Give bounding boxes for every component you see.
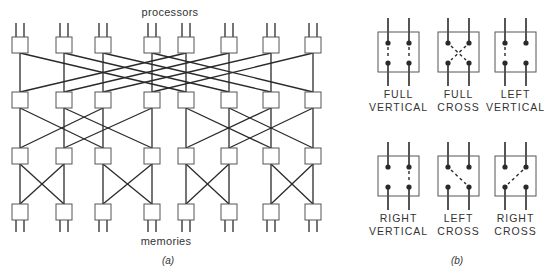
switch-box [144, 204, 160, 220]
switch-box [263, 37, 279, 53]
switch-label-line2: VERTICAL [369, 225, 428, 237]
switch-box [12, 148, 28, 164]
switch-box [378, 32, 419, 72]
switch-label-line1: RIGHT [380, 212, 418, 224]
switch-box [221, 92, 237, 108]
panel-b-switch-states: FULLVERTICALFULLCROSSLEFTVERTICALRIGHTVE… [369, 18, 545, 266]
terminal-dot [445, 60, 450, 65]
switch-box [144, 148, 160, 164]
terminal-dot [523, 164, 528, 169]
switch-box [263, 148, 279, 164]
switch-label-line1: RIGHT [497, 212, 535, 224]
switch-box [56, 92, 72, 108]
switch-box [178, 204, 194, 220]
switch-box [438, 156, 479, 196]
switch-box [56, 148, 72, 164]
switch-box [12, 37, 28, 53]
switch-box [12, 92, 28, 108]
terminal-dot [406, 184, 411, 189]
switch-box [144, 37, 160, 53]
terminal-dot [523, 60, 528, 65]
switch-label-line2: VERTICAL [486, 101, 545, 113]
switch-box [178, 148, 194, 164]
dashed-connection [451, 46, 466, 60]
switch-box [221, 148, 237, 164]
switch-box [221, 204, 237, 220]
terminal-dot [502, 40, 507, 45]
terminal-dot [466, 184, 471, 189]
switch-box [495, 32, 536, 72]
switch-box [56, 37, 72, 53]
terminal-dot [466, 60, 471, 65]
terminal-dot [406, 164, 411, 169]
switch-full-cross: FULLCROSS [437, 18, 479, 113]
terminal-dot [502, 60, 507, 65]
terminal-dot [406, 40, 411, 45]
terminal-dot [385, 60, 390, 65]
switch-box [221, 37, 237, 53]
switch-box [378, 156, 419, 196]
switch-label-line1: LEFT [444, 212, 474, 224]
switch-label-line1: LEFT [501, 88, 531, 100]
processors-label: processors [142, 6, 199, 18]
terminal-dot [445, 164, 450, 169]
caption-a: (a) [162, 255, 174, 266]
switch-box [56, 204, 72, 220]
switch-label-line2: CROSS [494, 225, 536, 237]
terminal-dot [502, 164, 507, 169]
switch-box [305, 148, 321, 164]
switch-full-vertical: FULLVERTICAL [369, 18, 428, 113]
switch-box [178, 37, 194, 53]
switch-box [305, 37, 321, 53]
network-links [16, 23, 317, 232]
switch-right-cross: RIGHTCROSS [494, 142, 536, 237]
caption-b: (b) [451, 255, 463, 266]
switch-label-line2: CROSS [437, 101, 479, 113]
terminal-dot [466, 40, 471, 45]
switch-box [438, 32, 479, 72]
diagram-svg: processors memories (a) FULLVERTICALFULL… [0, 0, 549, 277]
switch-box [95, 92, 111, 108]
switch-boxes [12, 37, 321, 220]
terminal-dot [385, 164, 390, 169]
switch-left-cross: LEFTCROSS [437, 142, 479, 237]
terminal-dot [406, 60, 411, 65]
dashed-connection [451, 46, 466, 60]
switch-label-line1: FULL [444, 88, 474, 100]
switch-label-line2: VERTICAL [369, 101, 428, 113]
switch-box [12, 204, 28, 220]
switch-label-line2: CROSS [437, 225, 479, 237]
switch-box [95, 204, 111, 220]
switch-box [95, 148, 111, 164]
terminal-dot [385, 40, 390, 45]
switch-right-vertical: RIGHTVERTICAL [369, 142, 428, 237]
terminal-dot [445, 40, 450, 45]
switch-state-list: FULLVERTICALFULLCROSSLEFTVERTICALRIGHTVE… [369, 18, 545, 237]
diagram-figure: processors memories (a) FULLVERTICALFULL… [0, 0, 549, 277]
switch-box [144, 92, 160, 108]
terminal-dot [466, 164, 471, 169]
switch-box [178, 92, 194, 108]
switch-box [305, 204, 321, 220]
switch-box [95, 37, 111, 53]
dashed-connection [451, 170, 466, 184]
dashed-connection [508, 170, 523, 184]
switch-box [263, 92, 279, 108]
switch-box [495, 156, 536, 196]
terminal-dot [502, 184, 507, 189]
terminal-dot [385, 184, 390, 189]
switch-label-line1: FULL [384, 88, 414, 100]
terminal-dot [523, 184, 528, 189]
memories-label: memories [141, 235, 192, 247]
terminal-dot [523, 40, 528, 45]
switch-left-vertical: LEFTVERTICAL [486, 18, 545, 113]
terminal-dot [445, 184, 450, 189]
switch-box [263, 204, 279, 220]
switch-box [305, 92, 321, 108]
panel-a-omega-network: processors memories (a) [12, 6, 321, 266]
